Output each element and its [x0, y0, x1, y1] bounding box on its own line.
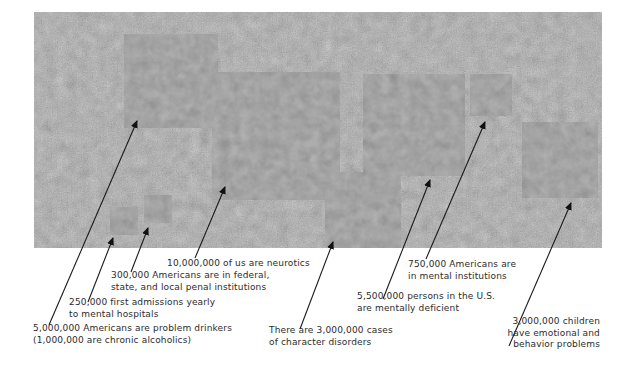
circle-problem-drinkers: [124, 34, 218, 128]
label-line: of character disorders: [269, 337, 393, 349]
label-line: have emotional and: [507, 328, 600, 340]
circle-first-admissions: [110, 207, 138, 235]
label-line: 750,000 Americans are: [408, 259, 516, 271]
circle-neurotics: [212, 72, 340, 200]
leader-line-character-disorders: [300, 242, 333, 329]
label-penal-institutions: 300,000 Americans are in federal,state, …: [111, 270, 269, 293]
label-line: state, and local penal institutions: [111, 282, 269, 294]
circle-penal-institutions: [144, 195, 172, 223]
label-line: 250,000 first admissions yearly: [69, 297, 215, 309]
label-line: 10,000,000 of us are neurotics: [167, 258, 310, 270]
label-neurotics: 10,000,000 of us are neurotics: [167, 258, 310, 270]
label-children-problems: 3,000,000 childrenhave emotional andbeha…: [507, 316, 600, 351]
circle-children-problems: [522, 122, 598, 198]
label-line: (1,000,000 are chronic alcoholics): [33, 335, 232, 347]
label-line: There are 3,000,000 cases: [269, 325, 393, 337]
label-line: in mental institutions: [408, 271, 516, 283]
label-line: 5,500,000 persons in the U.S.: [357, 291, 495, 303]
label-line: behavior problems: [507, 339, 600, 351]
label-first-admissions: 250,000 first admissions yearlyto mental…: [69, 297, 215, 320]
circle-character-disorders: [325, 172, 401, 248]
circle-mentally-deficient: [363, 74, 465, 176]
circle-mental-institutions: [470, 74, 512, 116]
label-line: 5,000,000 Americans are problem drinkers: [33, 323, 232, 335]
label-line: 300,000 Americans are in federal,: [111, 270, 269, 282]
label-character-disorders: There are 3,000,000 casesof character di…: [269, 325, 393, 348]
label-mental-institutions: 750,000 Americans arein mental instituti…: [408, 259, 516, 282]
label-mentally-deficient: 5,500,000 persons in the U.S.are mentall…: [357, 291, 495, 314]
label-line: are mentally deficient: [357, 303, 495, 315]
label-line: 3,000,000 children: [507, 316, 600, 328]
label-problem-drinkers: 5,000,000 Americans are problem drinkers…: [33, 323, 232, 346]
label-line: to mental hospitals: [69, 309, 215, 321]
